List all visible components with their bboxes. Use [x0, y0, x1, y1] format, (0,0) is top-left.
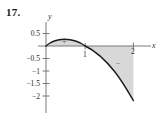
- y-tick-label-2: −1: [14, 67, 40, 76]
- x-tick-label-1: 1: [83, 50, 87, 59]
- y-tick-label-0: 0.5: [18, 29, 40, 38]
- y-tick-label-4: −2: [14, 92, 40, 101]
- positive-sign-annotation: +: [62, 37, 67, 46]
- x-tick-label-2: 2: [131, 47, 135, 56]
- figure-container: 17. y x 0.5 −0.5 −1 −1.5 −2 1 2 + −: [0, 0, 164, 120]
- x-axis-label: x: [152, 41, 156, 50]
- y-axis-label: y: [48, 12, 52, 21]
- y-tick-label-3: −1.5: [12, 79, 40, 88]
- shaded-negative-region: [85, 46, 133, 101]
- y-tick-label-1: −0.5: [14, 54, 40, 63]
- negative-sign-annotation: −: [116, 59, 121, 68]
